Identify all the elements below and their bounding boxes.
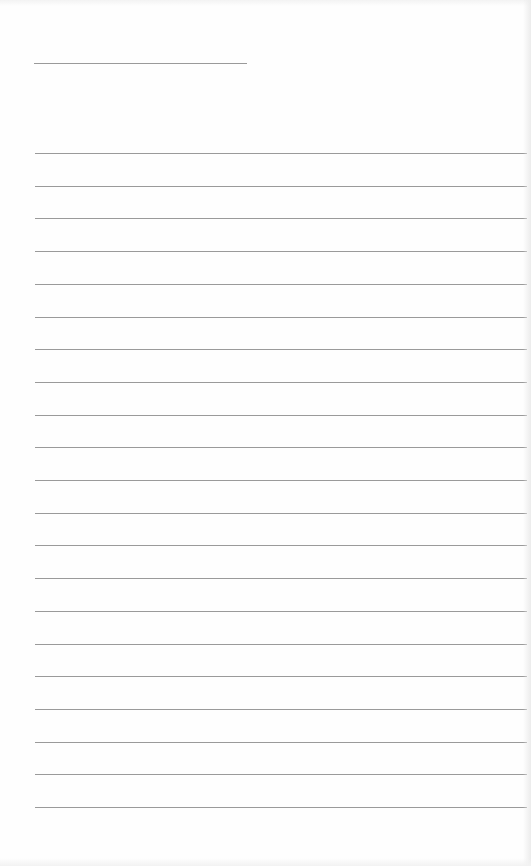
lined-paper-sheet — [0, 0, 531, 866]
ruled-line — [35, 382, 527, 383]
paper-right-shadow — [523, 0, 531, 866]
ruled-line — [35, 317, 527, 318]
ruled-line — [35, 644, 527, 645]
ruled-line — [35, 415, 527, 416]
ruled-line — [35, 545, 527, 546]
paper-bottom-shadow — [0, 858, 531, 866]
ruled-line — [35, 447, 527, 448]
ruled-line — [35, 513, 527, 514]
ruled-line — [35, 578, 527, 579]
ruled-line — [35, 742, 527, 743]
ruled-line — [35, 709, 527, 710]
ruled-lines — [0, 0, 531, 866]
ruled-line — [35, 284, 527, 285]
ruled-line — [35, 807, 527, 808]
ruled-line — [35, 251, 527, 252]
ruled-line — [35, 480, 527, 481]
ruled-line — [35, 218, 527, 219]
ruled-line — [35, 611, 527, 612]
ruled-line — [35, 676, 527, 677]
ruled-line — [35, 153, 527, 154]
ruled-line — [35, 186, 527, 187]
ruled-line — [35, 349, 527, 350]
ruled-line — [35, 774, 527, 775]
